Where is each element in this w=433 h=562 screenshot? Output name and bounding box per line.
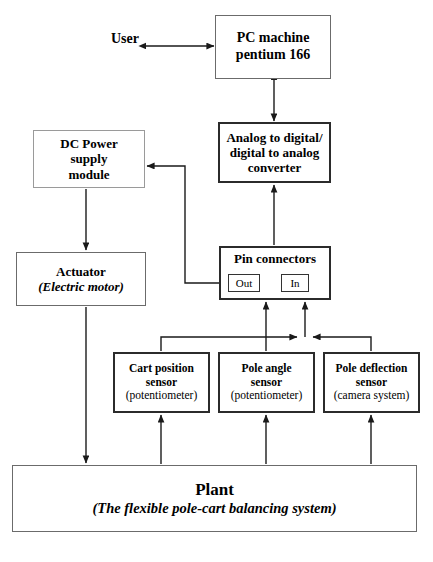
node-ad-da-converter: Analog to digital/ digital to analog con… [218,122,331,183]
wire-out-dcpower [147,166,230,283]
dc-power-line2: supply [71,151,108,166]
user-label: User [111,31,139,47]
sensor3-line1: Pole deflection [336,362,408,376]
converter-line1: Analog to digital/ [226,130,322,145]
sensor1-line2: sensor [146,376,177,390]
converter-line2: digital to analog [230,145,320,160]
dc-power-line3: module [68,167,109,182]
node-plant: Plant (The flexible pole-cart balancing … [12,465,417,532]
node-actuator: Actuator (Electric motor) [16,252,146,306]
node-cart-position-sensor: Cart position sensor (potentiometer) [113,352,210,413]
node-pc-machine: PC machine pentium 166 [215,15,331,79]
wire-sensor3-bus [313,337,371,351]
converter-line3: converter [248,160,301,175]
node-pin-connectors: Pin connectors [219,246,331,300]
plant-line2: (The flexible pole-cart balancing system… [92,500,336,517]
plant-line1: Plant [195,480,234,500]
node-pole-angle-sensor: Pole angle sensor (potentiometer) [218,352,315,413]
dc-power-line1: DC Power [60,136,117,151]
sensor3-line2: sensor [356,376,387,390]
node-dc-power-supply-module: DC Power supply module [33,130,145,188]
actuator-line1: Actuator [56,264,106,279]
sensor2-line1: Pole angle [241,362,291,376]
sensor3-line3: (camera system) [334,389,410,403]
node-pole-deflection-sensor: Pole deflection sensor (camera system) [323,352,420,413]
pc-machine-line1: PC machine [237,30,310,47]
sensor1-line1: Cart position [129,362,194,376]
pc-machine-line2: pentium 166 [236,47,310,64]
pin-connectors-title: Pin connectors [234,251,316,266]
sensor1-line3: (potentiometer) [126,389,198,403]
actuator-line2: (Electric motor) [38,279,124,294]
sensor2-line3: (potentiometer) [231,389,303,403]
wire-sensor1-bus [161,337,297,351]
sensor2-line2: sensor [251,376,282,390]
block-diagram: User PC machine pentium 166 Analog to di… [0,0,433,562]
